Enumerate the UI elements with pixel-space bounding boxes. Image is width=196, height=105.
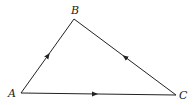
edge-a-b: [21, 19, 74, 93]
vertex-label-c: C: [179, 89, 188, 102]
edge-c-b: [74, 19, 176, 95]
vertex-label-a: A: [7, 87, 16, 100]
vertex-label-b: B: [70, 4, 79, 17]
edge-a-c: [21, 93, 176, 95]
triangle-diagram: B A C: [0, 0, 196, 105]
